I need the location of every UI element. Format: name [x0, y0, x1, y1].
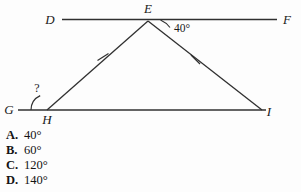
geometry-figure-container: D E F G H I 40° ?: [0, 0, 301, 130]
answer-choice-d[interactable]: D.140°: [6, 173, 301, 188]
point-label-e: E: [143, 1, 152, 16]
tick-mark-ei-icon: [191, 55, 200, 64]
answer-choice-a-value: 40°: [24, 128, 42, 142]
answer-choice-d-value: 140°: [24, 173, 48, 187]
answer-choice-a[interactable]: A.40°: [6, 128, 301, 143]
answer-choice-b-letter: B.: [6, 143, 24, 158]
point-label-g: G: [4, 102, 14, 117]
answer-choices-list: A.40° B.60° C.120° D.140°: [0, 128, 301, 188]
answer-choice-c-letter: C.: [6, 158, 24, 173]
point-label-i: I: [266, 104, 272, 119]
segment-eh: [47, 21, 148, 110]
angle-arc-e-icon: [161, 20, 171, 28]
answer-choice-c[interactable]: C.120°: [6, 158, 301, 173]
angle-arc-h-icon: [31, 96, 40, 110]
answer-choice-d-letter: D.: [6, 173, 24, 188]
answer-choice-b[interactable]: B.60°: [6, 143, 301, 158]
answer-choice-c-value: 120°: [24, 158, 48, 172]
geometry-diagram: D E F G H I 40° ?: [0, 0, 301, 130]
point-label-d: D: [44, 12, 55, 27]
point-label-f: F: [282, 12, 292, 27]
answer-choice-b-value: 60°: [24, 143, 42, 157]
angle-label-40-degrees: 40°: [174, 22, 191, 34]
angle-label-unknown: ?: [34, 81, 39, 95]
answer-choice-a-letter: A.: [6, 128, 24, 143]
point-label-h: H: [41, 112, 52, 127]
segment-ei: [148, 21, 262, 110]
